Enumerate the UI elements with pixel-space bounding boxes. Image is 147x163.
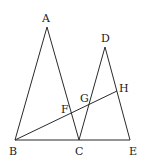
point-label-f: F <box>61 103 69 116</box>
labels-group: A B C D E F G H <box>9 12 137 158</box>
geometry-diagram: A B C D E F G H <box>0 0 147 163</box>
point-label-b: B <box>9 145 17 158</box>
segment-ac <box>47 27 79 140</box>
segments-group <box>15 27 130 140</box>
segment-ab <box>15 27 47 140</box>
point-label-c: C <box>75 145 83 158</box>
point-label-d: D <box>101 32 110 45</box>
point-label-a: A <box>41 12 51 25</box>
point-label-g: G <box>80 92 89 105</box>
point-label-e: E <box>129 145 137 158</box>
point-label-h: H <box>119 82 129 95</box>
